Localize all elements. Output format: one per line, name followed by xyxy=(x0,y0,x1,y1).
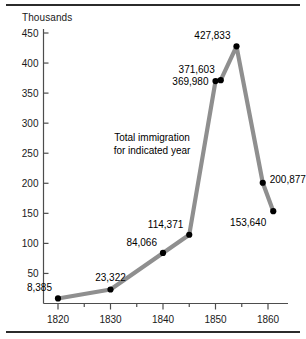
data-point-value-label: 84,066 xyxy=(126,237,157,248)
y-axis-tick-label: 250 xyxy=(22,148,39,159)
x-axis: 18201830184018501860 xyxy=(44,304,289,325)
immigration-series: 8,38523,32284,066114,371369,980371,60342… xyxy=(27,30,306,301)
x-axis-tick-label: 1830 xyxy=(99,314,122,325)
data-point-marker xyxy=(270,208,276,214)
y-axis-tick-label: 450 xyxy=(22,28,39,39)
y-axis-tick-label: 150 xyxy=(22,208,39,219)
y-axis-tick-label: 200 xyxy=(22,178,39,189)
data-point-value-label: 369,980 xyxy=(172,76,209,87)
y-axis: 50100150200250300350400450 xyxy=(22,28,49,304)
data-point-marker xyxy=(107,286,113,292)
data-point-marker xyxy=(160,250,166,256)
data-point-marker xyxy=(218,77,224,83)
data-point-marker xyxy=(55,295,61,301)
data-point-marker xyxy=(260,180,266,186)
y-axis-tick-label: 300 xyxy=(22,118,39,129)
y-axis-tick-label: 50 xyxy=(27,268,39,279)
immigration-line-chart-figure: Thousands 50100150200250300350400450 182… xyxy=(0,0,306,339)
data-point-value-label: 8,385 xyxy=(27,282,52,293)
y-axis-tick-label: 100 xyxy=(22,238,39,249)
data-point-marker xyxy=(233,43,239,49)
x-axis-tick-label: 1860 xyxy=(257,314,280,325)
data-point-value-label: 114,371 xyxy=(148,219,184,230)
data-point-value-label: 200,877 xyxy=(270,174,306,185)
chart-plot-area: 50100150200250300350400450 1820183018401… xyxy=(0,0,306,339)
annotation-line-1: Total immigration xyxy=(114,132,190,143)
x-axis-tick-label: 1840 xyxy=(152,314,175,325)
data-point-value-label: 153,640 xyxy=(230,217,267,228)
data-point-marker xyxy=(212,78,218,84)
data-point-value-label: 427,833 xyxy=(194,30,231,41)
immigration-trend-line xyxy=(58,46,273,298)
data-point-marker xyxy=(186,232,192,238)
data-point-value-label: 23,322 xyxy=(95,272,126,283)
x-axis-tick-label: 1850 xyxy=(204,314,227,325)
y-axis-tick-label: 350 xyxy=(22,88,39,99)
y-axis-tick-label: 400 xyxy=(22,58,39,69)
data-point-value-label: 371,603 xyxy=(179,64,216,75)
x-axis-tick-label: 1820 xyxy=(47,314,70,325)
chart-annotation: Total immigrationfor indicated year xyxy=(114,132,191,156)
annotation-line-2: for indicated year xyxy=(114,145,191,156)
